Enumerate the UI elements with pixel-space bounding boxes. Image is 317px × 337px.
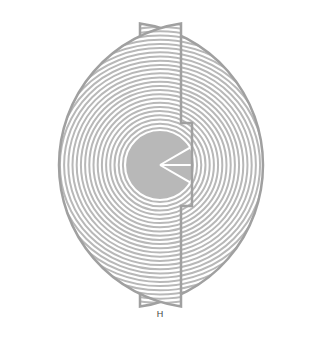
split-disc-diagram (0, 0, 317, 337)
figure-label: H (154, 309, 166, 319)
right-half (20, 24, 308, 307)
